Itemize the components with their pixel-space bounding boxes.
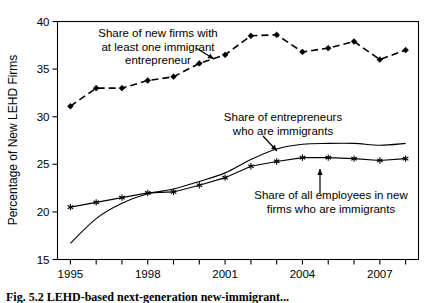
x-tick-label: 2001 (212, 268, 238, 280)
y-tick-label: 20 (37, 206, 50, 218)
x-tick-label: 1998 (135, 268, 161, 280)
data-point-marker (274, 32, 280, 38)
data-point-marker (222, 174, 228, 180)
annotation-middle-line: who are immigrants (232, 125, 334, 137)
data-point-marker (325, 45, 331, 51)
plot-frame (58, 22, 419, 260)
annotation-bottom-arrowhead (317, 169, 322, 175)
plot-area-border (58, 22, 419, 260)
x-tick-label: 1995 (58, 268, 84, 280)
annotation-top-line: entrepreneur (125, 54, 191, 66)
y-tick-label: 40 (37, 16, 50, 28)
annotation-layer: Share of new firms withat least one immi… (98, 27, 408, 215)
figure-container: 152025303540 19951998200120042007 Share … (0, 0, 433, 303)
data-point-marker (171, 74, 177, 80)
annotation-top-line: at least one immigrant (101, 41, 215, 53)
annotation-bottom-line: Share of all employees in new (254, 189, 408, 201)
y-tick-label: 25 (37, 158, 50, 170)
data-point-marker (248, 33, 254, 39)
line-chart: 152025303540 19951998200120042007 Share … (0, 0, 433, 303)
annotation-bottom-line: firms who are immigrants (267, 203, 396, 215)
figure-caption: Fig. 5.2 LEHD-based next-generation new-… (6, 290, 289, 303)
x-tick-label: 2004 (290, 268, 316, 280)
y-axis-title: Percentage of New LEHD Firms (6, 55, 20, 226)
annotation-top-line: Share of new firms with (98, 27, 218, 39)
y-axis-ticks: 152025303540 (37, 16, 58, 266)
y-tick-label: 35 (37, 63, 50, 75)
data-point-marker (119, 85, 125, 91)
data-point-marker (403, 47, 409, 53)
annotation-middle-line: Share of entrepreneurs (224, 111, 343, 123)
data-point-marker (196, 60, 202, 66)
data-point-marker (300, 49, 306, 55)
data-point-marker (145, 78, 151, 84)
x-axis-ticks: 19951998200120042007 (58, 260, 406, 280)
y-tick-label: 15 (37, 254, 50, 266)
y-tick-label: 30 (37, 111, 50, 123)
x-tick-label: 2007 (367, 268, 393, 280)
